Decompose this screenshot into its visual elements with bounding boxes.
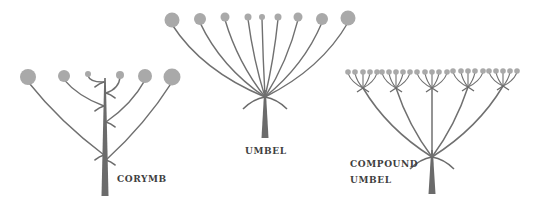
flower-head-icon: [341, 11, 356, 26]
pedicel: [106, 80, 145, 122]
flower-head-icon: [486, 68, 492, 74]
bract-icon: [468, 87, 474, 91]
compound-umbel-label-line-1: COMPOUND: [350, 158, 418, 171]
bract-icon: [106, 93, 115, 98]
pedicel: [225, 20, 265, 97]
compound-umbel-label-line-2: UMBEL: [350, 174, 418, 187]
flower-head-icon: [407, 69, 413, 75]
flower-head-icon: [414, 69, 420, 75]
bract-icon: [265, 97, 287, 109]
flower-head-icon: [514, 68, 520, 74]
bract-icon: [432, 157, 454, 169]
flower-head-icon: [465, 68, 471, 74]
flower-head-icon: [393, 69, 399, 75]
flower-head-icon: [352, 69, 358, 75]
flower-head-icon: [386, 69, 392, 75]
pedicel: [262, 19, 265, 97]
flower-head-icon: [493, 68, 499, 74]
pedicel: [432, 86, 503, 157]
flower-head-icon: [116, 71, 124, 79]
flower-head-icon: [436, 69, 442, 75]
bract-icon: [106, 122, 115, 127]
pedicel: [265, 20, 298, 97]
pedicel: [106, 82, 172, 160]
bract-icon: [357, 88, 363, 92]
corymb-label-line-1: CORYMB: [117, 173, 167, 186]
flower-head-icon: [379, 69, 385, 75]
bract-icon: [426, 88, 432, 92]
flower-head-icon: [316, 13, 328, 25]
pedicel: [64, 80, 104, 106]
flower-head-icon: [472, 68, 478, 74]
bract-icon: [503, 86, 509, 90]
compound-umbel-label: COMPOUND UMBEL: [350, 158, 418, 187]
pedicel: [106, 77, 120, 93]
flower-head-icon: [345, 69, 351, 75]
flower-head-icon: [400, 69, 406, 75]
flower-head-icon: [507, 68, 513, 74]
pedicel: [396, 88, 432, 157]
pedicel: [363, 88, 432, 157]
flower-head-icon: [444, 69, 450, 75]
bract-icon: [95, 106, 104, 111]
flower-head-icon: [367, 69, 373, 75]
flower-head-icon: [58, 70, 70, 82]
bract-icon: [390, 88, 396, 92]
flower-head-icon: [194, 13, 206, 25]
umbel-label-line-1: UMBEL: [245, 145, 287, 158]
flower-head-icon: [500, 68, 506, 74]
flower-head-icon: [165, 13, 180, 28]
flower-head-icon: [450, 68, 456, 74]
flower-head-icon: [422, 69, 428, 75]
flower-head-icon: [259, 14, 265, 20]
corymb-label: CORYMB: [117, 173, 167, 186]
flower-head-icon: [294, 13, 303, 22]
umbel-label: UMBEL: [245, 145, 287, 158]
flower-head-icon: [374, 69, 380, 75]
stem: [102, 78, 109, 196]
flower-head-icon: [20, 69, 36, 85]
pedicel: [28, 82, 104, 155]
flower-head-icon: [138, 69, 152, 83]
flower-head-icon: [245, 14, 252, 21]
pedicel: [88, 76, 104, 82]
flower-head-icon: [164, 69, 181, 86]
flower-head-icon: [360, 69, 366, 75]
bract-icon: [243, 97, 265, 109]
flower-head-icon: [458, 68, 464, 74]
flower-head-icon: [429, 69, 435, 75]
inflorescence-diagram: [0, 0, 540, 208]
pedicel: [432, 87, 468, 157]
flower-head-icon: [480, 68, 486, 74]
flower-head-icon: [221, 13, 230, 22]
flower-head-icon: [85, 71, 91, 77]
bract-icon: [432, 88, 438, 92]
bract-icon: [95, 82, 104, 87]
umbel-diagram: [165, 11, 356, 139]
flower-head-icon: [275, 14, 282, 21]
